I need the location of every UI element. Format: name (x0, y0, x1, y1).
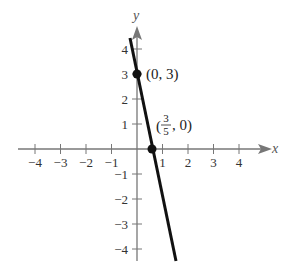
svg-text:3: 3 (210, 155, 217, 170)
svg-text:−3: −3 (54, 155, 68, 170)
svg-text:1: 1 (122, 117, 129, 132)
y-axis-label: y (131, 8, 140, 23)
x-axis (18, 144, 272, 154)
svg-text:−4: −4 (28, 155, 42, 170)
svg-text:−3: −3 (114, 217, 128, 232)
point-y-intercept-label: (0, 3) (146, 66, 179, 83)
svg-text:, 0): , 0) (172, 117, 192, 134)
svg-text:4: 4 (236, 155, 243, 170)
svg-text:−2: −2 (114, 192, 128, 207)
svg-text:1: 1 (159, 155, 166, 170)
svg-text:(: ( (156, 118, 161, 135)
svg-text:−1: −1 (114, 167, 128, 182)
svg-text:2: 2 (122, 92, 129, 107)
svg-text:−4: −4 (114, 242, 128, 257)
svg-text:5: 5 (163, 125, 169, 137)
svg-text:3: 3 (163, 112, 169, 124)
point-y-intercept (133, 70, 142, 79)
svg-text:4: 4 (122, 42, 129, 57)
svg-text:2: 2 (185, 155, 192, 170)
svg-text:3: 3 (122, 67, 129, 82)
point-x-intercept-label: ( 3 5 , 0) (156, 112, 192, 137)
x-tick-labels: −4 −3 −2 −1 1 2 3 4 (28, 155, 243, 170)
x-axis-label: x (271, 141, 279, 156)
svg-text:−2: −2 (79, 155, 93, 170)
point-x-intercept (148, 145, 157, 154)
graph: x y −4 −3 −2 −1 1 2 3 4 4 3 2 1 −1 −2 −3… (0, 0, 285, 275)
